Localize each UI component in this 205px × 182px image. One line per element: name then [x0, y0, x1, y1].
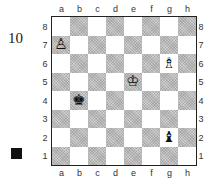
rank-label-3: 3	[197, 114, 205, 124]
file-label-a: a	[53, 4, 71, 14]
square-f5[interactable]	[142, 73, 160, 92]
rank-label-2: 2	[41, 133, 49, 143]
square-c5[interactable]	[88, 73, 106, 92]
file-label-c: c	[89, 4, 107, 14]
square-c6[interactable]	[88, 54, 106, 73]
rank-label-1: 1	[41, 151, 49, 161]
square-b3[interactable]	[70, 110, 88, 129]
square-g1[interactable]	[160, 147, 178, 166]
square-f6[interactable]	[142, 54, 160, 73]
square-e8[interactable]	[124, 17, 142, 36]
black-to-move-marker	[11, 148, 22, 159]
square-g5[interactable]	[160, 73, 178, 92]
square-d4[interactable]	[106, 91, 124, 110]
chess-board: ♙♗♔♚♝	[51, 16, 197, 166]
square-a1[interactable]	[52, 147, 70, 166]
square-h7[interactable]	[178, 36, 196, 55]
square-f1[interactable]	[142, 147, 160, 166]
square-g3[interactable]	[160, 110, 178, 129]
square-f7[interactable]	[142, 36, 160, 55]
rank-label-4: 4	[41, 96, 49, 106]
file-label-b: b	[71, 168, 89, 178]
square-f2[interactable]	[142, 128, 160, 147]
file-label-b: b	[71, 4, 89, 14]
square-e3[interactable]	[124, 110, 142, 129]
square-d1[interactable]	[106, 147, 124, 166]
square-h2[interactable]	[178, 128, 196, 147]
square-e7[interactable]	[124, 36, 142, 55]
white-pawn-icon[interactable]: ♙	[54, 37, 67, 52]
rank-label-4: 4	[197, 96, 205, 106]
square-c1[interactable]	[88, 147, 106, 166]
square-g7[interactable]	[160, 36, 178, 55]
square-b6[interactable]	[70, 54, 88, 73]
rank-label-1: 1	[197, 151, 205, 161]
square-d2[interactable]	[106, 128, 124, 147]
rank-label-8: 8	[41, 22, 49, 32]
puzzle-number: 10	[8, 30, 23, 47]
square-e1[interactable]	[124, 147, 142, 166]
square-h4[interactable]	[178, 91, 196, 110]
black-king-icon[interactable]: ♚	[72, 93, 85, 108]
file-label-c: c	[89, 168, 107, 178]
square-a7[interactable]: ♙	[52, 36, 70, 55]
square-d5[interactable]	[106, 73, 124, 92]
square-e2[interactable]	[124, 128, 142, 147]
square-a8[interactable]	[52, 17, 70, 36]
rank-label-6: 6	[41, 59, 49, 69]
black-bishop-icon[interactable]: ♝	[162, 130, 175, 145]
square-d6[interactable]	[106, 54, 124, 73]
square-e6[interactable]	[124, 54, 142, 73]
square-d8[interactable]	[106, 17, 124, 36]
square-a6[interactable]	[52, 54, 70, 73]
file-label-f: f	[143, 168, 161, 178]
square-a3[interactable]	[52, 110, 70, 129]
white-king-icon[interactable]: ♔	[126, 74, 139, 89]
square-a4[interactable]	[52, 91, 70, 110]
square-c2[interactable]	[88, 128, 106, 147]
square-b1[interactable]	[70, 147, 88, 166]
square-h8[interactable]	[178, 17, 196, 36]
square-d7[interactable]	[106, 36, 124, 55]
square-c3[interactable]	[88, 110, 106, 129]
file-label-e: e	[125, 168, 143, 178]
file-label-h: h	[179, 4, 197, 14]
white-bishop-icon[interactable]: ♗	[162, 56, 175, 71]
square-f8[interactable]	[142, 17, 160, 36]
rank-label-7: 7	[41, 40, 49, 50]
square-b5[interactable]	[70, 73, 88, 92]
file-label-g: g	[161, 4, 179, 14]
square-h3[interactable]	[178, 110, 196, 129]
square-h1[interactable]	[178, 147, 196, 166]
square-g6[interactable]: ♗	[160, 54, 178, 73]
rank-label-8: 8	[197, 22, 205, 32]
rank-label-3: 3	[41, 114, 49, 124]
square-f3[interactable]	[142, 110, 160, 129]
rank-label-7: 7	[197, 40, 205, 50]
square-a2[interactable]	[52, 128, 70, 147]
square-a5[interactable]	[52, 73, 70, 92]
square-b2[interactable]	[70, 128, 88, 147]
file-label-d: d	[107, 4, 125, 14]
square-c7[interactable]	[88, 36, 106, 55]
square-g8[interactable]	[160, 17, 178, 36]
square-f4[interactable]	[142, 91, 160, 110]
square-b7[interactable]	[70, 36, 88, 55]
file-label-d: d	[107, 168, 125, 178]
rank-label-6: 6	[197, 59, 205, 69]
rank-label-5: 5	[41, 77, 49, 87]
file-label-a: a	[53, 168, 71, 178]
square-e5[interactable]: ♔	[124, 73, 142, 92]
square-d3[interactable]	[106, 110, 124, 129]
square-h5[interactable]	[178, 73, 196, 92]
square-h6[interactable]	[178, 54, 196, 73]
square-e4[interactable]	[124, 91, 142, 110]
square-g2[interactable]: ♝	[160, 128, 178, 147]
square-b4[interactable]: ♚	[70, 91, 88, 110]
square-c4[interactable]	[88, 91, 106, 110]
square-c8[interactable]	[88, 17, 106, 36]
square-g4[interactable]	[160, 91, 178, 110]
file-label-g: g	[161, 168, 179, 178]
rank-label-2: 2	[197, 133, 205, 143]
square-b8[interactable]	[70, 17, 88, 36]
